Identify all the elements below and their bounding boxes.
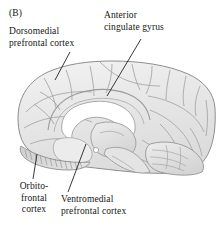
panel-letter: (B) xyxy=(9,8,22,20)
label-dorsomedial-prefrontal-cortex: Dorsomedial prefrontal cortex xyxy=(9,26,74,49)
label-anterior-cingulate-gyrus: Anterior cingulate gyrus xyxy=(104,10,164,33)
brain-figure-panel-b: (B) Dorsomedial prefrontal cortex Anteri… xyxy=(0,0,222,232)
label-ventromedial-prefrontal-cortex: Ventromedial prefrontal cortex xyxy=(61,194,126,217)
label-orbitofrontal-cortex: Orbito- frontal cortex xyxy=(11,181,57,216)
